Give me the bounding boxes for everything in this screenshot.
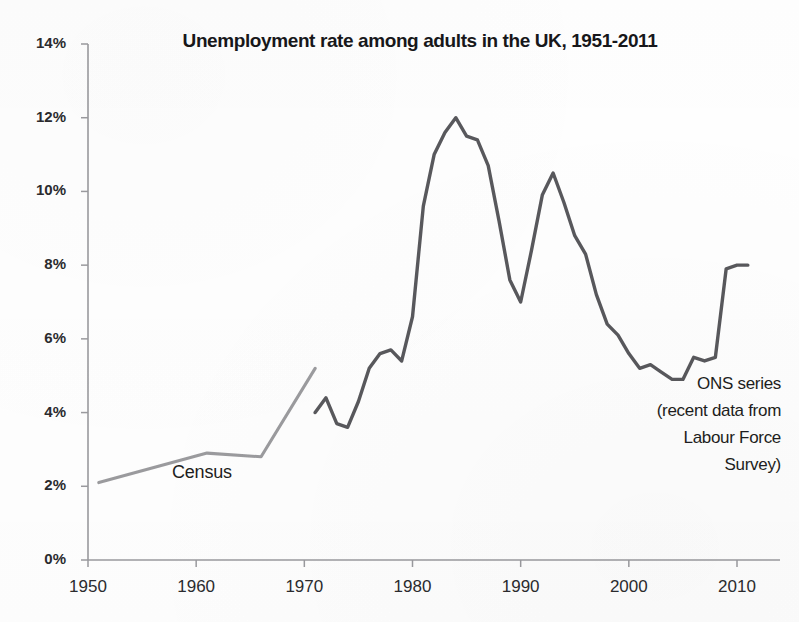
- x-axis-tick-label: 2000: [589, 577, 669, 597]
- page-title: Unemployment rate among adults in the UK…: [110, 30, 730, 52]
- y-axis-tick-label: 8%: [8, 255, 66, 272]
- y-axis-tick-label: 10%: [8, 181, 66, 198]
- ons-series-label-line-4: Survey): [657, 451, 781, 478]
- census-series-label: Census: [172, 462, 232, 483]
- x-axis-tick-label: 1980: [373, 577, 453, 597]
- ons-series-label-line-2: (recent data from: [657, 397, 781, 424]
- chart-axes: [81, 44, 780, 567]
- ons-series-label: ONS series (recent data from Labour Forc…: [657, 370, 781, 478]
- chart-series-group: [99, 118, 748, 483]
- y-axis-tick-label: 12%: [8, 108, 66, 125]
- y-axis-tick-label: 2%: [8, 476, 66, 493]
- line-chart-canvas: [0, 0, 799, 622]
- x-axis-ticks: [88, 560, 737, 567]
- ons-series-label-line-1: ONS series: [657, 370, 781, 397]
- x-axis-tick-label: 1970: [264, 577, 344, 597]
- y-axis-tick-label: 4%: [8, 403, 66, 420]
- chart-page: Unemployment rate among adults in the UK…: [0, 0, 799, 622]
- y-axis-tick-label: 14%: [8, 34, 66, 51]
- ons-series-label-line-3: Labour Force: [657, 424, 781, 451]
- y-axis-ticks: [81, 44, 88, 560]
- x-axis-tick-label: 1960: [156, 577, 236, 597]
- x-axis-tick-label: 1950: [48, 577, 128, 597]
- y-axis-tick-label: 6%: [8, 329, 66, 346]
- y-axis-tick-label: 0%: [8, 550, 66, 567]
- x-axis-tick-label: 2010: [697, 577, 777, 597]
- x-axis-tick-label: 1990: [481, 577, 561, 597]
